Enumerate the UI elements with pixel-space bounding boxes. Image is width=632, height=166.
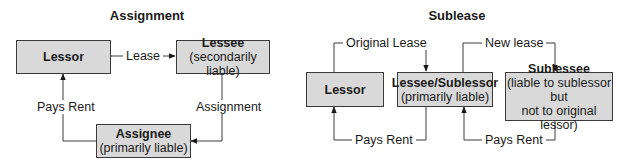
assignment-lessee-box: Lessee (secondarily liable) <box>176 40 270 74</box>
assignment-assignee-note: (primarily liable) <box>99 141 187 155</box>
sublease-sublessor-box: Lessee/Sublessor (primarily liable) <box>397 72 493 107</box>
sublease-new-lease-label: New lease <box>482 36 546 50</box>
sublease-lessor-name: Lessor <box>325 83 366 97</box>
assignment-assignment-label: Assignment <box>193 100 264 114</box>
assignment-assignee-box: Assignee (primarily liable) <box>96 124 191 158</box>
sublease-sublessor-note: (primarily liable) <box>401 90 489 104</box>
sublease-sublessee-name: Sublessee <box>528 62 590 76</box>
assignment-assignee-name: Assignee <box>116 127 172 141</box>
sublease-original-lease-label: Original Lease <box>343 36 430 50</box>
assignment-lessor-name: Lessor <box>43 50 84 64</box>
sublease-sublessee-note-line2: not to original lessor) <box>506 104 612 132</box>
assignment-lessee-note: (secondarily liable) <box>177 50 269 78</box>
sublease-title: Sublease <box>412 8 502 23</box>
sublease-sublessee-note-line1: (liable to sublessor but <box>506 76 612 104</box>
assignment-lessee-name: Lessee <box>202 36 244 50</box>
assignment-pays-rent-label: Pays Rent <box>34 100 98 114</box>
assignment-title: Assignment <box>97 8 197 23</box>
assignment-lease-label: Lease <box>123 49 163 63</box>
sublease-sublessee-box: Sublessee (liable to sublessor but not t… <box>505 72 613 121</box>
sublease-pays-rent-label-2: Pays Rent <box>482 133 546 147</box>
sublease-lessor-box: Lessor <box>306 72 384 107</box>
sublease-sublessor-name: Lessee/Sublessor <box>392 76 498 90</box>
assignment-lessor-box: Lessor <box>16 40 111 74</box>
sublease-pays-rent-label-1: Pays Rent <box>352 133 416 147</box>
